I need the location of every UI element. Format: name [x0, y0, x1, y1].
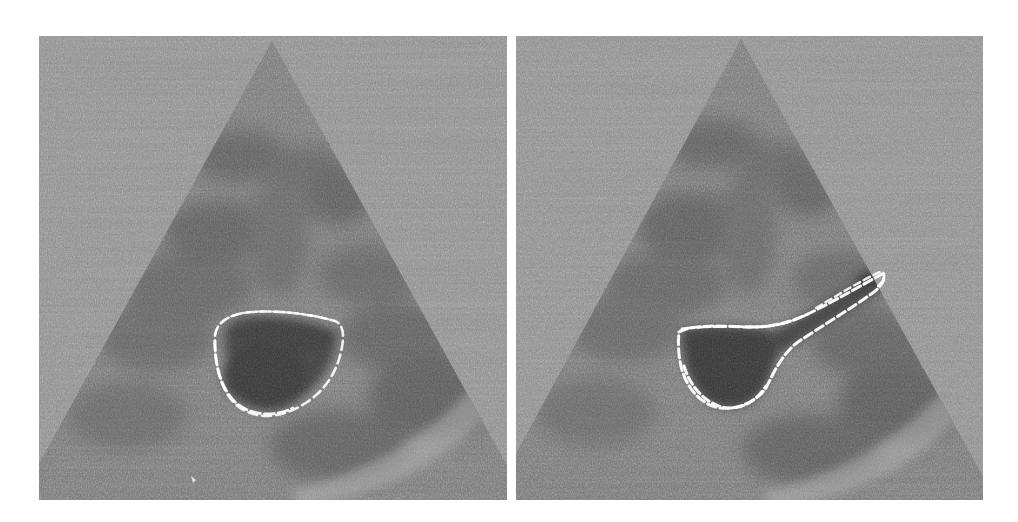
ultrasound-panel-right[interactable]: Right panel: ultrasound sector scan with… — [516, 36, 983, 500]
ultrasound-figure: Left panel: ultrasound sector scan with … — [0, 0, 1018, 522]
ultrasound-panel-left[interactable]: Left panel: ultrasound sector scan with … — [39, 36, 507, 500]
panel-right-canvas — [516, 36, 983, 500]
panel-left-canvas — [39, 36, 507, 500]
